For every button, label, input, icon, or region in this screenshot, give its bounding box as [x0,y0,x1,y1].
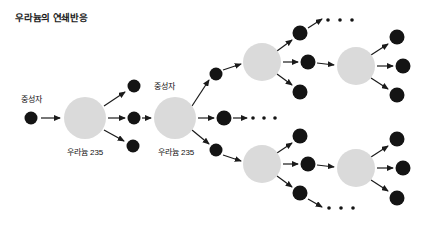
arrow-u1-n3 [104,130,124,141]
arrow-u3-n7 [277,40,292,51]
uranium-nucleus-1 [64,97,106,139]
arrow-u5-n13 [371,44,388,55]
neutron-g3-top-up [293,26,308,41]
arrow-n7-ellipsis-top [308,19,322,28]
arrow-u2-n4 [192,80,209,106]
uranium-nucleus-6 [337,149,375,187]
neutron-g4-bottom-mid [396,161,411,176]
neutron-g4-top-up [390,30,405,45]
neutron-g3-bottom-mid [301,157,316,172]
ellipsis-middle [251,116,277,120]
chain-reaction-diagram: 중성자 중성자 우라늄 235 우라늄 235 [0,0,429,228]
arrow-u3-n9 [277,74,292,85]
arrow-u6-n16 [371,146,388,157]
uranium-nucleus-4 [243,145,281,183]
neutron-g1-mid [128,112,141,125]
neutron-g1-up [128,80,141,93]
neutron-g3-top-mid [301,55,316,70]
label-uranium-1: 우라늄 235 [67,148,104,157]
neutron-incident [25,112,38,125]
ellipsis-lower [327,206,355,210]
neutron-g4-bottom-down [390,191,405,206]
arrow-u4-n12 [277,176,292,187]
uranium-nucleus-5 [337,47,375,85]
arrow-n4-u3 [223,64,241,70]
arrow-n12-ellipsis-lower [308,199,322,207]
label-uranium-2: 우라늄 235 [158,148,195,157]
uranium-nucleus-3 [243,43,281,81]
neutron-g2-down [210,144,223,157]
arrow-u6-n18 [371,180,388,191]
arrow-n8-u5 [317,63,334,65]
ellipsis-top [326,18,354,22]
arrow-u1-n1 [104,92,125,106]
arrow-n6-u4 [223,155,241,161]
neutron-g2-up [210,68,223,81]
neutron-g3-bottom-down [293,186,308,201]
neutron-g3-top-down [293,85,308,100]
arrow-u4-n10 [277,143,292,153]
arrow-n11-u6 [317,165,334,167]
neutron-g2-mid [217,111,232,126]
uranium-nucleus-2 [154,97,196,139]
arrow-u5-n15 [371,78,388,89]
label-neutron-left: 중성자 [21,95,43,104]
neutron-g1-down [127,140,140,153]
arrow-u2-n6 [192,130,209,144]
neutron-g3-bottom-up [293,129,308,144]
label-neutron-top: 중성자 [154,82,176,91]
figure-container: 우라늄의 연쇄반응 [0,0,429,228]
neutron-g4-top-mid [396,59,411,74]
neutron-g4-bottom-up [390,132,405,147]
neutron-g4-top-down [390,88,405,103]
